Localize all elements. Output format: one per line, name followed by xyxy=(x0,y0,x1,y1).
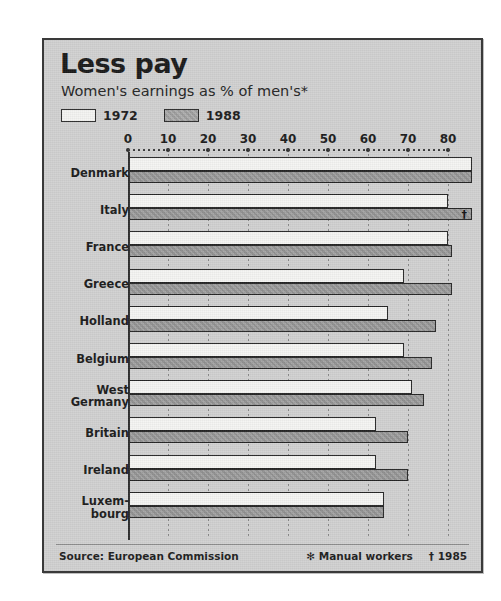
bar-1972 xyxy=(128,380,412,394)
bar-1988 xyxy=(128,506,384,518)
bar-annotation-dagger: † xyxy=(462,208,468,221)
x-tick-label: 70 xyxy=(400,132,417,146)
category-label: Ireland xyxy=(19,464,129,477)
bar-group xyxy=(128,228,458,265)
category-label: Luxem-bourg xyxy=(19,495,129,520)
bar-1972 xyxy=(128,417,376,431)
bar-1988 xyxy=(128,469,408,481)
footer-divider xyxy=(56,544,469,545)
bar-rows: DenmarkItaly†FranceGreeceHollandBelgiumW… xyxy=(44,154,485,536)
chart-row: WestGermany xyxy=(44,377,485,414)
x-tick-label: 10 xyxy=(160,132,177,146)
x-tick-label: 20 xyxy=(200,132,217,146)
x-tick-label: 60 xyxy=(360,132,377,146)
category-label: Belgium xyxy=(19,352,129,365)
category-label: Greece xyxy=(19,278,129,291)
x-tick-label: 50 xyxy=(320,132,337,146)
bar-group xyxy=(128,489,458,526)
source-label: Source: European Commission xyxy=(59,550,239,562)
bar-1988 xyxy=(128,394,424,406)
x-tick-label: 80 xyxy=(440,132,457,146)
chart-panel: Less pay Women's earnings as % of men's*… xyxy=(42,38,483,573)
bar-1972 xyxy=(128,343,404,357)
bar-group xyxy=(128,452,458,489)
bar-1988: † xyxy=(128,208,472,220)
bar-1988 xyxy=(128,245,452,257)
bar-1988 xyxy=(128,171,472,183)
chart-row: Holland xyxy=(44,303,485,340)
bar-1988 xyxy=(128,320,436,332)
bar-group: † xyxy=(128,191,458,228)
bar-1988 xyxy=(128,283,452,295)
bar-1972 xyxy=(128,194,448,208)
bar-1972 xyxy=(128,306,388,320)
chart-row: Greece xyxy=(44,266,485,303)
category-label: Holland xyxy=(19,315,129,328)
chart-row: Denmark xyxy=(44,154,485,191)
bar-1972 xyxy=(128,157,472,171)
chart-row: Belgium xyxy=(44,340,485,377)
bar-1972 xyxy=(128,231,448,245)
chart-row: France xyxy=(44,228,485,265)
category-label: Italy xyxy=(19,204,129,217)
category-label: France xyxy=(19,241,129,254)
bar-group xyxy=(128,414,458,451)
x-axis-dotted-rule xyxy=(128,149,450,151)
bar-group xyxy=(128,303,458,340)
bar-group xyxy=(128,266,458,303)
chart-row: Britain xyxy=(44,414,485,451)
category-label: Britain xyxy=(19,427,129,440)
footnotes: ✻ Manual workers † 1985 xyxy=(306,550,467,562)
bar-group xyxy=(128,154,458,191)
bar-1988 xyxy=(128,431,408,443)
chart-row: Italy† xyxy=(44,191,485,228)
bar-1988 xyxy=(128,357,432,369)
chart-row: Ireland xyxy=(44,452,485,489)
x-tick-label: 0 xyxy=(124,132,132,146)
x-tick-label: 40 xyxy=(280,132,297,146)
bar-1972 xyxy=(128,455,376,469)
bar-group xyxy=(128,340,458,377)
chart-footer: Source: European Commission ✻ Manual wor… xyxy=(59,550,467,562)
category-label: WestGermany xyxy=(19,383,129,408)
footnote-manual-workers: ✻ Manual workers xyxy=(306,550,413,562)
bar-group xyxy=(128,377,458,414)
category-label: Denmark xyxy=(19,166,129,179)
plot-area: 01020304050607080 DenmarkItaly†FranceGre… xyxy=(44,40,485,575)
x-tick-label: 30 xyxy=(240,132,257,146)
footnote-year: † 1985 xyxy=(429,550,467,562)
bar-1972 xyxy=(128,492,384,506)
bar-1972 xyxy=(128,269,404,283)
chart-row: Luxem-bourg xyxy=(44,489,485,526)
